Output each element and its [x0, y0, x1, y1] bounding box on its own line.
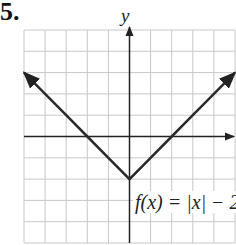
function-label: f(x) = |x| − 2 [133, 191, 236, 213]
